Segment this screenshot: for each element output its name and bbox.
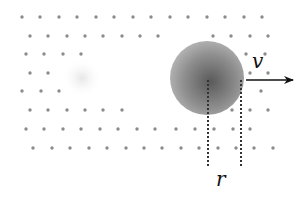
particle-dot xyxy=(83,108,86,111)
particle-dot xyxy=(266,34,269,37)
particle-dot xyxy=(87,146,90,149)
particle-dot xyxy=(142,146,145,149)
particle-dot xyxy=(266,108,269,111)
particle-dot xyxy=(20,89,23,92)
particle-dot xyxy=(252,146,255,149)
particle-dot xyxy=(57,15,60,18)
particle-dot xyxy=(120,34,123,37)
particle-dot xyxy=(46,34,49,37)
radius-label: r xyxy=(216,167,227,191)
particle-dot xyxy=(168,15,171,18)
particle-dot xyxy=(229,34,232,37)
particle-dot xyxy=(98,127,101,130)
ghost-sphere-trail xyxy=(62,58,102,98)
particle-dot xyxy=(263,52,266,55)
particle-dot xyxy=(131,15,134,18)
particle-dot xyxy=(193,127,196,130)
particle-dot xyxy=(266,71,269,74)
particle-dot xyxy=(135,127,138,130)
particle-dot xyxy=(197,146,200,149)
particle-dot xyxy=(112,15,115,18)
particle-dot xyxy=(24,127,27,130)
particle-dot xyxy=(31,146,34,149)
particle-dot xyxy=(179,146,182,149)
particle-dot xyxy=(61,127,64,130)
particle-dot xyxy=(105,146,108,149)
particle-dot xyxy=(244,52,247,55)
particle-dot xyxy=(234,146,237,149)
sphere-lattice-diagram: v r xyxy=(0,0,302,205)
particle-dot xyxy=(50,146,53,149)
particle-dot xyxy=(160,146,163,149)
particle-dot xyxy=(68,146,71,149)
particle-dot xyxy=(248,108,251,111)
particle-dot xyxy=(46,71,49,74)
particle-dot xyxy=(24,52,27,55)
particle-dot xyxy=(124,146,127,149)
particle-dot xyxy=(120,108,123,111)
particle-dot xyxy=(216,146,219,149)
particle-dot xyxy=(153,127,156,130)
particle-dot xyxy=(260,15,263,18)
particle-dot xyxy=(65,108,68,111)
particle-dot xyxy=(61,52,64,55)
particle-dot xyxy=(65,34,68,37)
particle-dot xyxy=(174,127,177,130)
particle-dot xyxy=(149,15,152,18)
particle-dot xyxy=(259,89,262,92)
particle-dot xyxy=(271,146,274,149)
velocity-label: v xyxy=(252,49,264,73)
particle-dot xyxy=(116,127,119,130)
particle-dot xyxy=(20,15,23,18)
particle-dot xyxy=(186,15,189,18)
particle-dot xyxy=(230,108,233,111)
particle-dot xyxy=(101,108,104,111)
particle-dot xyxy=(94,15,97,18)
moving-sphere xyxy=(170,41,244,115)
particle-dot xyxy=(205,15,208,18)
particle-dot xyxy=(242,15,245,18)
particle-dot xyxy=(46,108,49,111)
particle-dot xyxy=(138,34,141,37)
particle-dot xyxy=(42,127,45,130)
particle-dot xyxy=(211,34,214,37)
particle-dot xyxy=(42,52,45,55)
particle-dot xyxy=(28,108,31,111)
particle-dot xyxy=(75,15,78,18)
particle-dot xyxy=(28,34,31,37)
particle-dot xyxy=(79,127,82,130)
particle-dot xyxy=(248,127,251,130)
particle-dot xyxy=(79,52,82,55)
particle-dot xyxy=(38,15,41,18)
particle-dot xyxy=(101,34,104,37)
particle-dot xyxy=(156,34,159,37)
particle-dot xyxy=(83,34,86,37)
particle-dot xyxy=(231,127,234,130)
particle-dot xyxy=(248,34,251,37)
particle-dot xyxy=(28,71,31,74)
particle-dot xyxy=(57,89,60,92)
particle-dot xyxy=(223,15,226,18)
particle-dot xyxy=(39,89,42,92)
particle-dot xyxy=(212,127,215,130)
